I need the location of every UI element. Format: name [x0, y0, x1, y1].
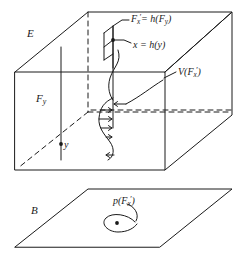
- label-vector-field: V(Fx′): [178, 67, 201, 79]
- point-y-dot: [59, 142, 63, 146]
- box-front-face: [15, 72, 165, 170]
- label-fiber-subscript: y: [43, 97, 47, 106]
- label-map-sets: Fx′= h(Fy): [131, 14, 171, 26]
- label-projection-base: p(F: [113, 195, 127, 206]
- leader-vector-field-label: [164, 72, 176, 78]
- box-right-face: [165, 12, 232, 170]
- label-total-space: E: [27, 28, 34, 39]
- box-hidden-diagonal-edge: [18, 112, 88, 168]
- projection-center-dot: [115, 221, 119, 225]
- projection-blob: [104, 215, 137, 232]
- box-top-face: [15, 12, 232, 72]
- strip-left-top-edge: [104, 26, 113, 68]
- strip-bottom-edge: [104, 54, 113, 60]
- label-point-y: y: [64, 140, 68, 150]
- label-map-sets-rhs-end: ): [168, 13, 171, 24]
- vector-field-leader-curve: [126, 80, 163, 104]
- transition-curve: [109, 50, 119, 100]
- vector-field-leader-arrow: [114, 102, 126, 107]
- label-projection: p(Fx′): [113, 196, 135, 208]
- label-fiber: Fy: [36, 93, 46, 106]
- leader-top-equation-1: [113, 20, 129, 26]
- label-projection-end: ): [131, 195, 134, 206]
- label-vector-field-end: ): [198, 66, 201, 77]
- figure-container: E Fy y Fx′= h(Fy) x = h(y) V(Fx′) B p(Fx…: [0, 0, 246, 263]
- label-vector-field-base: V(F: [178, 66, 194, 77]
- label-map-sets-rhs: = h(F: [141, 13, 165, 24]
- diagram-canvas: [0, 0, 246, 263]
- label-map-points: x = h(y): [133, 40, 165, 50]
- leader-top-equation-2: [113, 40, 131, 43]
- label-base-space: B: [31, 205, 38, 216]
- label-fiber-base: F: [36, 92, 43, 104]
